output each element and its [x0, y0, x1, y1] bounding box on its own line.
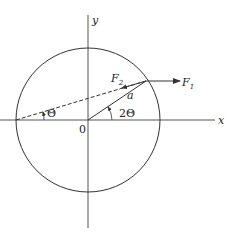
x-axis-label: x: [218, 114, 225, 127]
radius-line: [88, 81, 146, 120]
angle-arc-2theta: [108, 107, 112, 120]
circle-force-diagram: y x 0 a 2Θ Θ F1 F2: [0, 0, 233, 235]
y-axis-label: y: [91, 14, 99, 27]
radius-label: a: [127, 89, 134, 102]
f2-label: F2: [110, 72, 124, 87]
angle-arc-theta: [43, 112, 44, 120]
f1-label: F1: [181, 76, 194, 91]
angle-theta-label: Θ: [47, 107, 56, 120]
f2-vector: [122, 81, 146, 88]
origin-label: 0: [79, 123, 86, 136]
angle-2theta-label: 2Θ: [119, 107, 135, 120]
